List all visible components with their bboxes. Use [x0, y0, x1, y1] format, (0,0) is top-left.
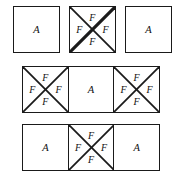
cell-label-a: A: [133, 142, 140, 153]
cell-label-f-right: F: [102, 25, 108, 35]
cell-label-f-left: F: [75, 143, 81, 153]
cell-r3c3: A: [113, 124, 160, 171]
cell-label-f-top: F: [134, 73, 140, 83]
cell-r2c3: F F F F: [113, 66, 160, 113]
cell-label-f-bottom: F: [89, 37, 95, 47]
cell-label-a: A: [33, 24, 40, 35]
cell-label-f-top: F: [88, 131, 94, 141]
cell-label-f-left: F: [29, 85, 35, 95]
cell-r2c1: F F F F: [22, 66, 69, 113]
cell-label-f-right: F: [55, 85, 61, 95]
cell-label-a: A: [145, 24, 152, 35]
tiling-figure: A F F F F A F F F F A: [0, 0, 183, 181]
cell-r1c1: A: [13, 6, 60, 53]
cell-label-f-bottom: F: [88, 155, 94, 165]
cell-r1c3: A: [125, 6, 172, 53]
cell-label-f-bottom: F: [42, 97, 48, 107]
cell-r3c2: F F F F: [68, 124, 115, 171]
cell-label-f-bottom: F: [134, 97, 140, 107]
cell-label-f-right: F: [101, 143, 107, 153]
row-1: A F F F F A: [13, 6, 172, 53]
cell-label-f-right: F: [147, 85, 153, 95]
cell-label-f-left: F: [76, 25, 82, 35]
cell-label-a: A: [42, 142, 49, 153]
row-2: F F F F A F F F F: [22, 66, 160, 113]
cell-r2c2: A: [68, 66, 115, 113]
cell-r3c1: A: [22, 124, 69, 171]
row-3: A F F F F A: [22, 124, 160, 171]
cell-label-f-top: F: [42, 73, 48, 83]
cell-label-f-top: F: [89, 13, 95, 23]
cell-label-a: A: [88, 84, 95, 95]
cell-r1c2: F F F F: [69, 6, 116, 53]
cell-label-f-left: F: [121, 85, 127, 95]
